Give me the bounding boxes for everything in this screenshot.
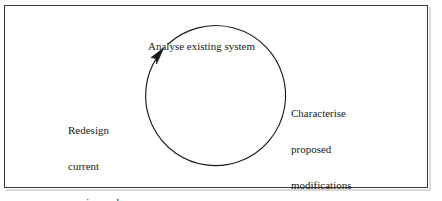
stage-label-right-line-3: modifications bbox=[291, 179, 352, 191]
stage-label-top: Analyse existing system bbox=[148, 16, 255, 76]
stage-label-right-line-2: proposed bbox=[291, 143, 352, 155]
stage-label-left-line-1: Redesign bbox=[68, 124, 119, 136]
stage-label-left-line-2: current bbox=[68, 160, 119, 172]
stage-label-top-line-1: Analyse existing system bbox=[148, 40, 255, 52]
stage-label-left: Redesign current version and implement bbox=[68, 100, 119, 201]
stage-label-right: Characterise proposed modifications bbox=[291, 83, 352, 201]
cycle-diagram-figure: Analyse existing system Characterise pro… bbox=[0, 0, 442, 201]
stage-label-left-line-3: version and bbox=[68, 196, 119, 201]
stage-label-right-line-1: Characterise bbox=[291, 107, 352, 119]
